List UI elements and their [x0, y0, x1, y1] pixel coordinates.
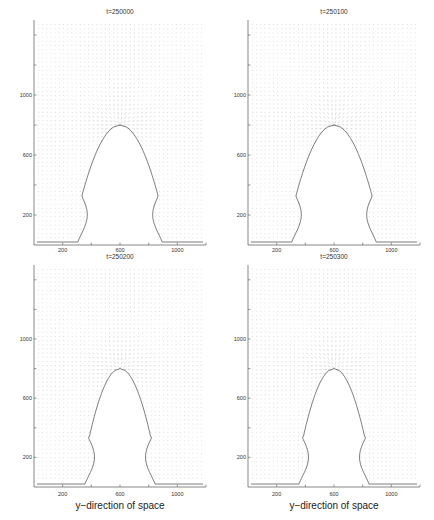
- x-tick-label: 1000: [171, 491, 183, 497]
- subplot-title: t=250000: [106, 8, 134, 15]
- subplot-3: t=25020020060010002006001000y−direction …: [20, 253, 206, 511]
- bubble-interface: [37, 369, 203, 484]
- x-tick-label: 200: [58, 247, 67, 253]
- x-axis-label: y−direction of space: [75, 500, 165, 511]
- x-tick-label: 200: [272, 491, 281, 497]
- y-tick-label: 600: [237, 395, 246, 401]
- y-tick-label: 1000: [20, 336, 32, 342]
- x-tick-label: 1000: [385, 247, 397, 253]
- vector-field: [252, 269, 416, 479]
- y-tick-label: 1000: [234, 92, 246, 98]
- x-tick-label: 1000: [171, 247, 183, 253]
- y-tick-label: 600: [237, 152, 246, 158]
- subplot-title: t=250200: [106, 253, 134, 260]
- bubble-interface: [37, 125, 203, 242]
- subplot-title: t=250100: [320, 8, 348, 15]
- bubble-interface: [251, 369, 417, 484]
- subplot-title: t=250300: [320, 253, 348, 260]
- subplot-2: t=25010020060010002006001000: [234, 8, 420, 253]
- y-tick-label: 1000: [20, 92, 32, 98]
- subplot-1: t=25000020060010002006001000: [20, 8, 206, 253]
- figure-canvas: t=25000020060010002006001000t=2501002006…: [0, 0, 434, 520]
- y-tick-label: 200: [237, 212, 246, 218]
- y-tick-label: 600: [23, 152, 32, 158]
- y-tick-label: 200: [237, 454, 246, 460]
- vector-field: [252, 24, 416, 238]
- y-tick-label: 200: [23, 454, 32, 460]
- subplot-4: t=25030020060010002006001000y−direction …: [234, 253, 420, 511]
- y-tick-label: 600: [23, 395, 32, 401]
- vector-field: [38, 24, 202, 238]
- vector-field: [38, 269, 202, 479]
- x-tick-label: 200: [58, 491, 67, 497]
- bubble-interface: [251, 125, 417, 242]
- x-axis-label: y−direction of space: [289, 500, 379, 511]
- x-tick-label: 200: [272, 247, 281, 253]
- y-tick-label: 1000: [234, 336, 246, 342]
- x-tick-label: 1000: [385, 491, 397, 497]
- y-tick-label: 200: [23, 212, 32, 218]
- x-tick-label: 600: [329, 491, 338, 497]
- x-tick-label: 600: [115, 491, 124, 497]
- figure: t=25000020060010002006001000t=2501002006…: [0, 0, 434, 520]
